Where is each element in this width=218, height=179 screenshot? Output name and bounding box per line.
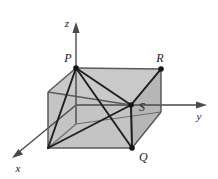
vertex-label-R: R (155, 51, 164, 65)
segment-S-to-Q (131, 105, 132, 148)
vertex-marker-P (73, 65, 79, 71)
y-axis-label: y (196, 110, 202, 122)
x-axis-label: x (15, 162, 21, 174)
vertex-marker-Q (129, 145, 135, 151)
vertex-label-S: S (139, 100, 145, 114)
edge-P-R-top-back (76, 68, 161, 69)
z-axis-arrowhead (72, 22, 79, 33)
box-diagram-svg: P R S Q z y x (0, 0, 218, 179)
vertex-marker-S (128, 102, 134, 108)
vertex-marker-R (158, 66, 164, 72)
vertex-label-Q: Q (139, 150, 148, 164)
z-axis-label: z (64, 17, 70, 29)
vertex-label-P: P (63, 51, 72, 65)
geometry-figure: P R S Q z y x (0, 0, 218, 179)
y-axis-arrowhead (196, 101, 207, 108)
